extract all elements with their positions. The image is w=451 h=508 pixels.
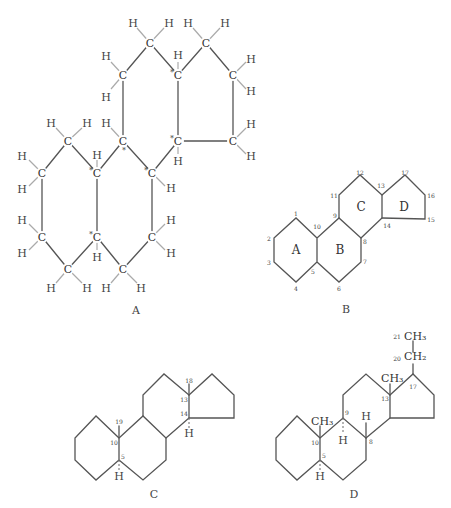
atom-number-8: 8	[369, 438, 373, 445]
carbon-atom: C	[146, 37, 154, 50]
hydrogen-atom: H	[246, 85, 256, 98]
atom-number-13: 13	[377, 182, 385, 189]
chiral-marker: *	[89, 230, 93, 239]
hydrogen-atom: H	[17, 183, 27, 196]
hydrogen-atom: H	[173, 155, 183, 168]
hydrogen-atom: H	[338, 434, 348, 447]
atom-number-18: 18	[185, 377, 193, 384]
carbon-atom: C	[202, 37, 210, 50]
methyl-group: CH₃	[404, 330, 426, 343]
hydrogen-atom: H	[17, 247, 27, 260]
ring-label-a: A	[291, 243, 301, 257]
chiral-marker: *	[122, 146, 126, 155]
carbon-atom: C	[229, 135, 237, 148]
atom-number-19: 19	[115, 418, 123, 425]
hydrogen-atom: H	[183, 17, 193, 30]
hydrogen-atom: H	[101, 50, 111, 63]
carbon-atom: C	[174, 69, 182, 82]
hydrogen-atom: H	[164, 17, 174, 30]
hydrogen-atom: H	[82, 282, 92, 295]
atom-number-5: 5	[121, 453, 125, 460]
chiral-marker: *	[170, 68, 174, 77]
hydrogen-atom: H	[173, 49, 183, 62]
panel-a-carbons: C C C C * C C * C * C C C C * C * C C * …	[38, 37, 237, 276]
hydrogen-atom: H	[246, 118, 256, 131]
atom-number-11: 11	[330, 192, 338, 199]
panel-b-structure: A B C D 1 2 3 4 5 6 7 8 9 10 11 12 13 14…	[267, 169, 435, 316]
methyl-group: CH₃	[381, 372, 403, 385]
atom-number-7: 7	[363, 258, 367, 265]
hydrogen-atom: H	[92, 149, 102, 162]
atom-number-5: 5	[322, 452, 326, 459]
carbon-atom: C	[64, 263, 72, 276]
hydrogen-atom: H	[101, 117, 111, 130]
hydrogen-atom: H	[184, 427, 194, 440]
atom-number-4: 4	[294, 285, 298, 292]
carbon-atom: C	[119, 263, 127, 276]
atom-number-15: 15	[427, 216, 435, 223]
hydrogen-atom: H	[92, 251, 102, 264]
atom-number-17: 17	[409, 383, 417, 390]
hydrogen-atom: H	[17, 214, 27, 227]
atom-number-13: 13	[381, 395, 389, 402]
panel-a-h-bonds	[29, 28, 246, 283]
atom-number-13: 13	[180, 396, 188, 403]
hydrogen-atom: H	[17, 150, 27, 163]
chiral-marker: *	[170, 134, 174, 143]
atom-number-5: 5	[311, 268, 315, 275]
hydrogen-atom: H	[166, 247, 176, 260]
atom-number-14: 14	[180, 410, 188, 417]
hydrogen-atom: H	[315, 470, 325, 483]
methylene-group: CH₂	[404, 350, 426, 363]
atom-number-8: 8	[363, 238, 367, 245]
ring-c	[143, 374, 189, 438]
atom-number-6: 6	[337, 285, 341, 292]
hydrogen-atom: H	[136, 282, 146, 295]
steroid-diagram: C C C C * C C * C * C C C C * C * C C * …	[0, 0, 451, 508]
atom-number-16: 16	[427, 192, 435, 199]
carbon-atom: C	[148, 231, 156, 244]
panel-a-structure: C C C C * C C * C * C C C C * C * C C * …	[17, 17, 256, 317]
hydrogen-atom: H	[246, 150, 256, 163]
atom-number-10: 10	[110, 439, 118, 446]
panel-a-caption: A	[131, 304, 141, 317]
atom-number-17: 17	[401, 169, 409, 176]
atom-number-12: 12	[356, 169, 364, 176]
panel-d-caption: D	[350, 488, 359, 501]
hydrogen-atom: H	[101, 91, 111, 104]
atom-number-14: 14	[383, 222, 391, 229]
hydrogen-atom: H	[128, 17, 138, 30]
hydrogen-atom: H	[82, 117, 92, 130]
hydrogen-atom: H	[114, 470, 124, 483]
panel-c-caption: C	[150, 488, 158, 501]
atom-number-20: 20	[393, 355, 401, 362]
hydrogen-atom: H	[166, 214, 176, 227]
methyl-group: CH₃	[311, 415, 333, 428]
panel-c-structure: 19 10 5 18 13 14 H H C	[75, 374, 234, 501]
atom-number-2: 2	[267, 235, 271, 242]
carbon-atom: C	[119, 69, 127, 82]
hydrogen-atom: H	[220, 17, 230, 30]
ring-label-b: B	[336, 243, 345, 257]
hydrogen-atom: H	[46, 282, 56, 295]
carbon-atom: C	[93, 167, 101, 180]
carbon-atom: C	[38, 231, 46, 244]
panel-b-caption: B	[342, 303, 350, 316]
atom-number-10: 10	[313, 223, 321, 230]
panel-d-structure: CH₃ CH₃ CH₂ CH₃ 10 5 9 8 13 17 20 21 H H…	[276, 330, 434, 501]
hydrogen-atom: H	[101, 282, 111, 295]
ring-label-d: D	[399, 200, 409, 214]
atom-number-21: 21	[393, 333, 401, 340]
panel-a-bonds	[42, 43, 233, 269]
atom-number-10: 10	[311, 439, 319, 446]
carbon-atom: C	[38, 167, 46, 180]
chiral-marker: *	[89, 166, 93, 175]
atom-number-9: 9	[333, 212, 337, 219]
hydrogen-atom: H	[246, 53, 256, 66]
atom-number-1: 1	[294, 210, 298, 217]
carbon-atom: C	[148, 167, 156, 180]
ring-label-c: C	[356, 200, 365, 214]
carbon-atom: C	[64, 135, 72, 148]
atom-number-9: 9	[345, 409, 349, 416]
atom-number-3: 3	[267, 259, 271, 266]
